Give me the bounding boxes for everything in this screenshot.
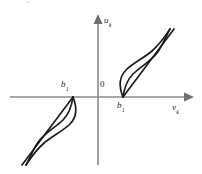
x-axis-label: vk xyxy=(172,103,179,114)
figure-canvas: uk vk 0 b1 b1 xyxy=(0,0,202,174)
y-axis-label-base: u xyxy=(104,15,109,25)
breakpoint-label-left: b1 xyxy=(61,80,69,91)
origin-label: 0 xyxy=(100,80,105,89)
breakpoint-right-subscript: 1 xyxy=(122,107,125,113)
breakpoint-left-base: b xyxy=(61,79,66,89)
breakpoint-label-right: b1 xyxy=(117,101,125,112)
arrow-right-icon xyxy=(184,93,194,102)
chord-upper-right xyxy=(123,29,174,97)
hysteresis-upper-outer-curve xyxy=(120,29,170,97)
hysteresis-lower-outer-curve xyxy=(26,97,76,165)
x-axis-label-subscript: k xyxy=(176,109,179,115)
arrow-up-icon xyxy=(94,14,103,24)
chord-lower-left xyxy=(22,97,73,165)
breakpoint-left-subscript: 1 xyxy=(66,86,69,92)
breakpoint-right-base: b xyxy=(117,100,122,110)
y-axis-label: uk xyxy=(104,16,111,27)
